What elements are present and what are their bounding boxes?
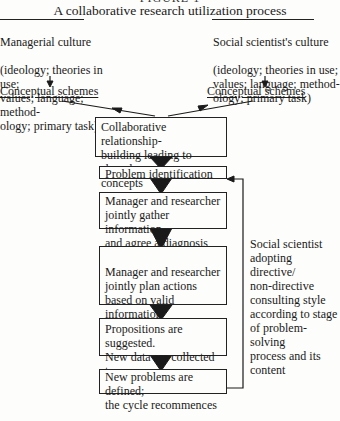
step-new-problems: New problems are defined; the cycle reco… xyxy=(99,369,227,394)
step-plan-actions: Manager and researcher jointly plan acti… xyxy=(99,246,227,305)
step-collaborative-relationship: Collaborative relationship- building lea… xyxy=(95,117,227,157)
feedback-arrow-icon xyxy=(227,176,234,182)
step-problem-identification: Problem identification xyxy=(99,166,227,179)
step-propositions: Propositions are suggested. New data are… xyxy=(99,318,227,356)
feedback-note: Social scientist adopting directive/ non… xyxy=(250,237,340,377)
step-gather-information: Manager and researcher jointly gather in… xyxy=(99,192,227,229)
arrow-down-icon xyxy=(262,81,268,87)
arrow-down-icon xyxy=(47,81,53,87)
